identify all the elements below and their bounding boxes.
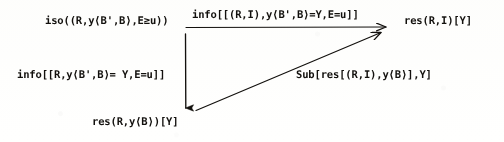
arrow-top-horizontal (186, 27, 386, 28)
edge-label-top-info: info[[(R,I),y⟨B',B⟩=Y,E=u]] (192, 9, 359, 22)
edge-label-left-info: info[[R,y⟨B',B⟩= Y,E=u]] (17, 69, 165, 82)
commutative-diagram: iso((R,y⟨B',B⟩,E≥u)) res(R,I)[Y] res(R,y… (0, 0, 504, 142)
edge-label-diagonal-sub: Sub[res[(R,I),y⟨B⟩],Y] (296, 69, 432, 82)
node-res-r-y-b: res(R,y⟨B⟩)[Y] (92, 116, 178, 129)
node-iso: iso((R,y⟨B',B⟩,E≥u)) (45, 15, 168, 28)
node-res-r-i: res(R,I)[Y] (404, 15, 472, 28)
